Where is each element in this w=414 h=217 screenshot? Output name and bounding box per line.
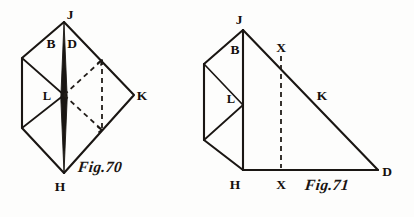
figure-71-caption: Fig.71 bbox=[304, 176, 350, 194]
fig71-label-J: J bbox=[236, 12, 243, 27]
fig70-label-H: H bbox=[55, 179, 66, 194]
fig70-dashed-upper-edge bbox=[64, 60, 102, 95]
fig71-flank-lower bbox=[204, 140, 243, 170]
figure-71-group: J B X L K H X D bbox=[204, 12, 392, 192]
fig71-label-X-hypotenuse: X bbox=[276, 40, 286, 55]
fig70-label-K: K bbox=[137, 88, 148, 103]
fig70-label-J: J bbox=[67, 7, 74, 22]
fig71-label-H: H bbox=[230, 177, 241, 192]
fig70-label-L: L bbox=[43, 89, 51, 103]
fig70-label-B: B bbox=[46, 36, 55, 51]
fig71-label-X-base: X bbox=[276, 177, 286, 192]
fig71-fold-upper bbox=[204, 64, 243, 105]
fig71-fold-lower bbox=[204, 105, 243, 140]
fig71-label-L: L bbox=[227, 92, 235, 106]
fig71-label-D: D bbox=[382, 164, 392, 179]
fig70-dashed-lower-edge bbox=[64, 95, 102, 130]
geometry-figure-plate: J B D L K H J B X bbox=[0, 0, 414, 217]
fig70-label-D: D bbox=[67, 36, 77, 51]
fig71-label-K: K bbox=[317, 88, 328, 103]
figure-canvas: J B D L K H J B X bbox=[0, 0, 414, 217]
figure-70-caption: Fig.70 bbox=[77, 158, 123, 176]
fig71-label-B: B bbox=[230, 42, 239, 57]
fig71-hypotenuse-JD bbox=[243, 30, 378, 170]
